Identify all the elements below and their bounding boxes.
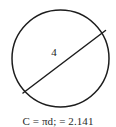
circle-outline bbox=[12, 10, 109, 107]
diameter-line bbox=[23, 31, 106, 94]
circle-diagram-graphic bbox=[0, 0, 116, 116]
diameter-length-label: 4 bbox=[47, 47, 61, 58]
circle-diagram-figure: 4 C = πd; = 2.141 bbox=[0, 0, 116, 127]
formula-caption: C = πd; = 2.141 bbox=[0, 115, 116, 127]
